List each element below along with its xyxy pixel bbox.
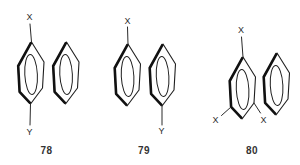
substituent-label-y: Y [158,126,164,136]
substituent-bond-y [30,104,31,125]
structure-79: X Y 79 [115,16,176,156]
structure-80: X X X 80 [212,25,289,156]
left-benzene-ring [115,44,141,106]
structures-svg: X Y 78 X Y 79 X X X 80 [0,0,300,165]
substituent-bond-x [128,27,129,44]
substituent-label-x: X [124,16,130,26]
substituent-bond-x-top [242,37,244,57]
chemical-structures-figure: X Y 78 X Y 79 X X X 80 [0,0,300,165]
left-benzene-ring [230,57,256,119]
substituent-bond-x [30,24,32,42]
right-benzene-ring [264,53,290,115]
substituent-label-x-lower-right: X [260,115,266,125]
right-benzene-ring [53,42,79,104]
substituent-bond-x-lower-right [254,103,261,113]
substituent-label-x-lower-left: X [212,115,218,125]
compound-number: 79 [138,145,150,156]
substituent-bond-x-lower-left [222,107,232,116]
right-benzene-ring [150,44,176,106]
compound-number: 80 [246,145,258,156]
compound-number: 78 [40,145,52,156]
substituent-label-x-top: X [238,25,244,35]
substituent-label-x: X [26,12,32,22]
left-benzene-ring [18,42,44,104]
structure-78: X Y 78 [18,12,79,156]
substituent-label-y: Y [26,127,32,137]
